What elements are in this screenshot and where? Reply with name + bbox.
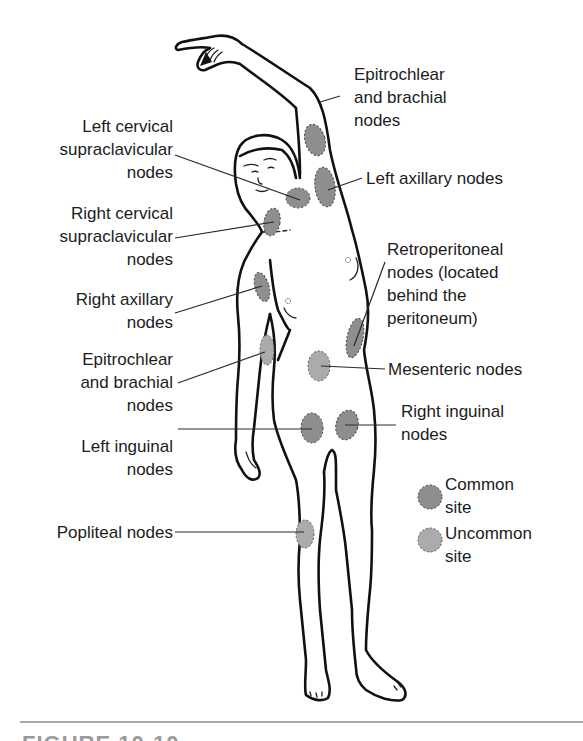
node-epitrochlear-lower	[260, 335, 274, 365]
legend-swatches	[418, 485, 442, 552]
label-right-axillary: Right axillary nodes	[20, 288, 173, 334]
lymph-node-sites	[251, 122, 367, 548]
label-epitrochlear-brachial-upper: Epitrochlear and brachial nodes	[354, 63, 447, 132]
label-right-cervical-supraclavicular: Right cervical supraclavicular nodes	[20, 202, 173, 271]
node-right-axillary	[251, 271, 272, 304]
legend-common-label: Common site	[445, 473, 514, 519]
label-right-inguinal: Right inguinal nodes	[401, 400, 504, 446]
node-left-cervical	[286, 188, 310, 208]
figure-caption: FIGURE 10-10	[22, 731, 180, 741]
label-left-inguinal: Left inguinal nodes	[20, 435, 173, 481]
node-left-axillary	[312, 166, 337, 208]
label-retroperitoneal: Retroperitoneal nodes (located behind th…	[387, 238, 503, 330]
node-left-inguinal	[301, 413, 323, 443]
legend-common-swatch	[418, 485, 442, 509]
legend-uncommon-label: Uncommon site	[445, 522, 532, 568]
label-mesenteric: Mesenteric nodes	[388, 358, 522, 381]
label-popliteal: Popliteal nodes	[20, 521, 173, 544]
legend-uncommon-swatch	[418, 528, 442, 552]
label-left-axillary: Left axillary nodes	[366, 167, 503, 190]
caption-separator	[20, 721, 583, 723]
node-popliteal	[296, 520, 314, 548]
label-left-cervical-supraclavicular: Left cervical supraclavicular nodes	[20, 115, 173, 184]
node-epitrochlear-upper	[301, 122, 329, 158]
leader-lines	[175, 96, 396, 532]
label-epitrochlear-brachial-lower: Epitrochlear and brachial nodes	[20, 348, 173, 417]
